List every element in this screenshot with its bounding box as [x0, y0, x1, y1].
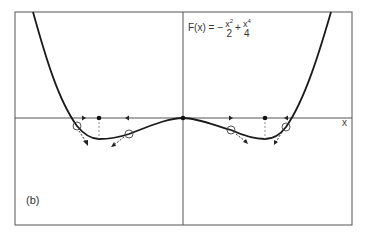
arrowhead-icon — [274, 140, 278, 145]
origin-dot — [181, 116, 186, 121]
potential-diagram — [0, 0, 367, 237]
denominator: 2 — [226, 29, 232, 39]
arrowhead-icon — [243, 139, 248, 144]
arrow-left-icon — [284, 116, 288, 121]
formula-label: F(x) = − x2 2 + x4 4 — [188, 16, 253, 39]
arrowhead-icon — [83, 140, 88, 146]
panel-label: (b) — [26, 194, 39, 206]
fraction-x2-over-2: x2 2 — [225, 16, 233, 39]
right-minimum-dot — [263, 116, 268, 121]
arrow-left-icon — [125, 116, 129, 121]
exponent: 2 — [230, 18, 233, 24]
arrow-right-icon — [82, 116, 86, 121]
arrow-right-icon — [229, 116, 233, 121]
arrowhead-icon — [111, 142, 116, 147]
left-minimum-dot — [97, 116, 102, 121]
x-axis-label: x — [342, 117, 347, 128]
exponent: 4 — [247, 18, 250, 24]
formula-sign: − — [217, 22, 223, 33]
formula-lhs: F(x) = — [188, 22, 214, 33]
denominator: 4 — [244, 29, 250, 39]
formula-plus: + — [235, 22, 241, 33]
fraction-x4-over-4: x4 4 — [243, 16, 251, 39]
